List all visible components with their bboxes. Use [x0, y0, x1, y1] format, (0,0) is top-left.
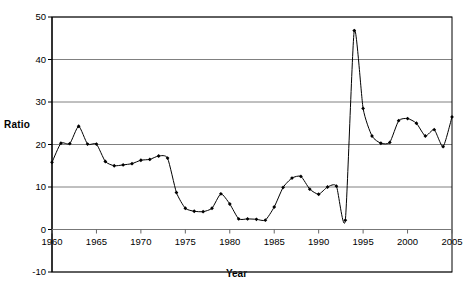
series-line — [52, 30, 452, 224]
data-point-marker — [175, 191, 179, 195]
data-point-marker — [139, 158, 143, 162]
data-point-marker — [157, 154, 161, 158]
data-point-marker — [112, 164, 116, 168]
data-point-marker — [343, 218, 347, 222]
data-point-marker — [50, 160, 54, 164]
chart-container: Ratio Year 50403020100-10 19601965197019… — [0, 0, 473, 296]
data-point-marker — [121, 163, 125, 167]
data-point-marker — [272, 205, 276, 209]
data-point-marker — [361, 106, 365, 110]
data-point-marker — [192, 209, 196, 213]
data-point-marker — [406, 117, 410, 121]
data-point-marker — [148, 157, 152, 161]
data-point-marker — [130, 162, 134, 166]
data-point-marker — [246, 217, 250, 221]
data-point-marker — [201, 210, 205, 214]
line-plot — [0, 0, 473, 296]
data-point-marker — [255, 217, 259, 221]
data-point-marker — [450, 115, 454, 119]
